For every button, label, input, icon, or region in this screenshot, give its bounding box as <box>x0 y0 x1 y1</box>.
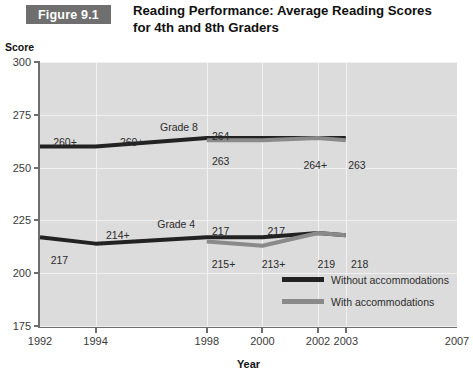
figure-title-line-1: Reading Performance: Average Reading Sco… <box>133 3 432 18</box>
data-point-label: 217 <box>212 225 230 237</box>
data-point-label: 213+ <box>262 258 286 270</box>
figure-container: Figure 9.1 Reading Performance: Average … <box>0 0 473 373</box>
figure-number-badge: Figure 9.1 <box>26 5 111 24</box>
data-point-label: 217 <box>268 225 286 237</box>
x-axis-tick-label: 2003 <box>334 335 358 347</box>
chart-legend: Without accommodations With accommodatio… <box>282 272 449 316</box>
y-axis-tick-label: 175 <box>13 320 31 332</box>
x-axis-tick-label: 1992 <box>28 335 52 347</box>
x-axis-tick <box>317 327 319 333</box>
x-axis-tick-label: 2000 <box>250 335 274 347</box>
y-axis-tick-label: 200 <box>13 267 31 279</box>
series-annotation-label: Grade 8 <box>160 121 198 133</box>
legend-item: With accommodations <box>282 294 449 309</box>
legend-swatch-with-accommodations <box>282 299 324 304</box>
x-axis-tick <box>206 327 208 333</box>
x-axis-tick <box>95 327 97 333</box>
page-title: Reading Performance: Average Reading Sco… <box>133 3 463 36</box>
figure-number-label: Figure 9.1 <box>38 8 99 22</box>
x-axis-title: Year <box>40 358 457 370</box>
data-point-label: 263 <box>348 159 366 171</box>
data-point-label: 219 <box>318 258 336 270</box>
data-point-label: 215+ <box>212 258 236 270</box>
series-annotation-label: Grade 4 <box>157 218 195 230</box>
data-point-label: 217 <box>51 254 69 266</box>
y-axis-tick-label: 275 <box>13 109 31 121</box>
x-axis-tick <box>345 327 347 333</box>
legend-label-with-accommodations: With accommodations <box>331 296 434 308</box>
x-axis-tick-label: 1998 <box>195 335 219 347</box>
figure-title-line-2: for 4th and 8th Graders <box>133 20 463 37</box>
y-axis-tick-label: 250 <box>13 162 31 174</box>
y-axis-tick-label: 225 <box>13 214 31 226</box>
gridline-horizontal <box>40 326 457 327</box>
data-point-label: 218 <box>351 258 369 270</box>
data-point-label: 214+ <box>106 229 130 241</box>
legend-label-without-accommodations: Without accommodations <box>331 274 449 286</box>
legend-item: Without accommodations <box>282 272 449 287</box>
y-axis-title: Score <box>5 41 34 53</box>
data-point-label: 260+ <box>53 136 77 148</box>
data-point-label: 263 <box>212 155 230 167</box>
legend-swatch-without-accommodations <box>282 277 324 282</box>
x-axis-tick-label: 1994 <box>83 335 107 347</box>
data-point-label: 264 <box>212 130 230 142</box>
data-point-label: 264+ <box>303 159 327 171</box>
data-point-label: 260+ <box>120 136 144 148</box>
x-axis-tick-label: 2002 <box>306 335 330 347</box>
x-axis-tick <box>261 327 263 333</box>
x-axis-tick-label: 2007 <box>445 335 469 347</box>
y-axis-tick-label: 300 <box>13 56 31 68</box>
